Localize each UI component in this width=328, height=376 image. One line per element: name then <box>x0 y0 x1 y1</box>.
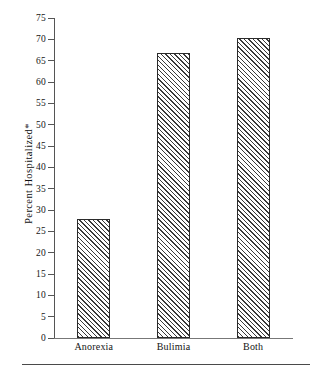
y-axis-tick-label: 35 <box>36 184 46 194</box>
y-axis-tick-label: 0 <box>41 333 46 343</box>
y-axis-tick-label: 10 <box>36 290 46 300</box>
y-axis-tick-label: 25 <box>36 226 46 236</box>
y-axis-title: Percent Hospitalized* <box>23 84 34 264</box>
y-axis-tick-label: 50 <box>36 120 46 130</box>
bar-both <box>237 38 270 338</box>
x-axis-category-label: Anorexia <box>54 341 134 353</box>
bar-chart-figure: Percent Hospitalized* 051015202530354045… <box>0 0 328 376</box>
y-axis-tick-label: 30 <box>36 205 46 215</box>
bar-anorexia <box>77 219 110 338</box>
y-axis-tick-label: 60 <box>36 77 46 87</box>
y-axis-tick-label: 20 <box>36 248 46 258</box>
y-axis-tick-label: 40 <box>36 162 46 172</box>
y-axis-tick-label: 55 <box>36 98 46 108</box>
y-axis-tick-label: 45 <box>36 141 46 151</box>
bar-bulimia <box>157 53 190 338</box>
y-axis-tick-label: 65 <box>36 56 46 66</box>
x-axis-category-label: Both <box>213 341 293 353</box>
plot-area <box>54 18 293 338</box>
x-axis-category-label: Bulimia <box>134 341 214 353</box>
bottom-horizontal-rule <box>22 364 310 365</box>
y-axis-tick-label: 15 <box>36 269 46 279</box>
x-axis-line <box>54 338 293 339</box>
y-axis-tick-label: 70 <box>36 34 46 44</box>
y-axis-tick-label: 5 <box>41 312 46 322</box>
y-axis-tick-label: 75 <box>36 13 46 23</box>
